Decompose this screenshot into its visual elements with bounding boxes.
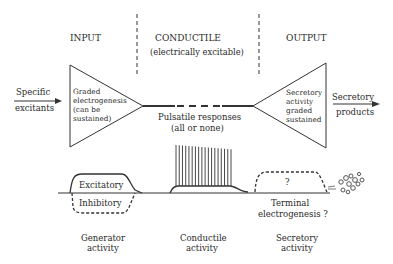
vesicle [341,188,345,192]
secretory-vesicles [339,172,364,193]
header-conductile-sub: (electrically excitable) [150,47,244,57]
pulsatile-label-1: Pulsatile responses [158,112,241,122]
vesicle [347,182,352,187]
output-triangle-text-4: sustained [286,116,322,125]
excitants-label-2: excitants [15,103,54,113]
caption-secretory-1: Secretory [276,233,318,243]
vesicle [344,176,349,181]
header-input: INPUT [70,33,101,43]
products-label-1: Secretory [332,92,374,102]
header-conductile: CONDUCTILE [155,33,221,43]
vesicle [353,178,358,183]
products-label-2: products [336,107,374,117]
release-dash-1 [328,186,335,187]
terminal-label-2: electrogenesis ? [258,209,328,219]
conductile-plateau [170,186,248,193]
terminal-label-1: Terminal [271,198,309,208]
input-arrow-head [55,98,62,104]
inhibitory-label: Inhibitory [79,198,122,208]
vesicle [349,174,353,178]
vesicle [351,186,356,191]
vesicle [346,190,350,194]
excitatory-label: Excitatory [79,180,123,190]
spike-train [176,145,231,186]
vesicle [356,182,360,186]
pulsatile-label-2: (all or none) [171,123,224,133]
caption-conductile-2: activity [186,243,218,253]
vesicle [339,180,343,184]
terminal-potential [255,172,327,192]
caption-secretory-2: activity [281,243,313,253]
vesicle [360,178,364,182]
caption-generator-2: activity [87,243,119,253]
question-mark: ? [285,177,290,187]
caption-conductile-1: Conductile [180,233,227,243]
header-output: OUTPUT [286,33,326,43]
input-triangle-text-4: sustained) [73,115,111,124]
caption-generator-1: Generator [81,233,125,243]
excitants-label-1: Specific [16,87,50,97]
vesicle [357,172,360,175]
